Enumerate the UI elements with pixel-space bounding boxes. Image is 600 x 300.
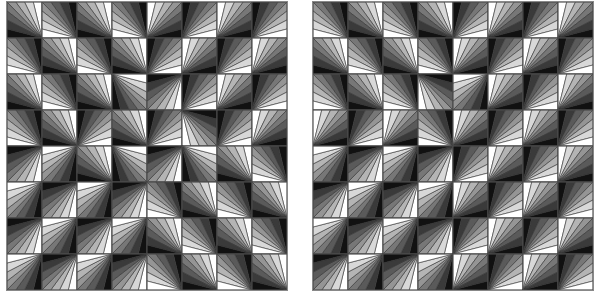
fan-tile (383, 2, 418, 38)
fan-tile (523, 218, 558, 254)
fan-tile (42, 110, 77, 146)
fan-tile (488, 110, 523, 146)
fan-tile (147, 146, 182, 182)
fan-tile (112, 38, 147, 74)
fan-tile (182, 110, 217, 146)
fan-tile (147, 2, 182, 38)
fan-tile (453, 2, 488, 38)
fan-tile (77, 38, 112, 74)
fan-tile (453, 38, 488, 74)
fan-tile (453, 254, 488, 290)
fan-tile (217, 74, 252, 110)
fan-tile (453, 74, 488, 110)
fan-tile (418, 146, 453, 182)
fan-tile (112, 146, 147, 182)
fan-tile (453, 146, 488, 182)
fan-tile (42, 146, 77, 182)
pattern-panel-right (312, 1, 594, 291)
fan-tile (182, 38, 217, 74)
pattern-panel-left (6, 1, 288, 291)
fan-tile (488, 38, 523, 74)
fan-tile (383, 74, 418, 110)
fan-tile (42, 38, 77, 74)
fan-tile (112, 218, 147, 254)
fan-tile (217, 110, 252, 146)
fan-tile (558, 38, 593, 74)
fan-tile (558, 74, 593, 110)
fan-tile (313, 218, 348, 254)
fan-tile (313, 38, 348, 74)
fan-tile (488, 218, 523, 254)
fan-tile (418, 218, 453, 254)
fan-tile (453, 182, 488, 218)
fan-tile (112, 254, 147, 290)
fan-tile (383, 110, 418, 146)
fan-tile (217, 254, 252, 290)
fan-tile (147, 218, 182, 254)
fan-tile (313, 110, 348, 146)
fan-tile (7, 218, 42, 254)
fan-tile (217, 146, 252, 182)
fan-tile (252, 2, 287, 38)
fan-tile (558, 2, 593, 38)
fan-tile (7, 182, 42, 218)
fan-tile (217, 38, 252, 74)
fan-tile (252, 182, 287, 218)
fan-tile (488, 254, 523, 290)
fan-tile (217, 182, 252, 218)
fan-tile (42, 182, 77, 218)
fan-tile (348, 110, 383, 146)
fan-tile (313, 2, 348, 38)
fan-tile (42, 74, 77, 110)
fan-tile (558, 254, 593, 290)
fan-tile (348, 74, 383, 110)
fan-tile (523, 2, 558, 38)
fan-tile (112, 2, 147, 38)
fan-tile (418, 74, 453, 110)
fan-tile (7, 110, 42, 146)
fan-tile (252, 254, 287, 290)
fan-tile (182, 218, 217, 254)
fan-tile (383, 38, 418, 74)
fan-tile (42, 218, 77, 254)
fan-tile (558, 146, 593, 182)
fan-tile (313, 146, 348, 182)
fan-tile (77, 74, 112, 110)
fan-tile (523, 38, 558, 74)
fan-tile (348, 2, 383, 38)
fan-tile (7, 74, 42, 110)
fan-tile (7, 38, 42, 74)
tile-grid-right (313, 2, 593, 290)
fan-tile (383, 146, 418, 182)
fan-tile (252, 146, 287, 182)
fan-tile (77, 2, 112, 38)
fan-tile (147, 74, 182, 110)
fan-tile (42, 254, 77, 290)
fan-tile (112, 110, 147, 146)
fan-tile (558, 182, 593, 218)
fan-tile (77, 146, 112, 182)
fan-tile (348, 182, 383, 218)
fan-tile (488, 2, 523, 38)
fan-tile (252, 110, 287, 146)
fan-tile (418, 38, 453, 74)
fan-tile (182, 146, 217, 182)
fan-tile (453, 110, 488, 146)
fan-tile (383, 254, 418, 290)
fan-tile (147, 110, 182, 146)
fan-tile (313, 182, 348, 218)
fan-tile (42, 2, 77, 38)
fan-tile (77, 110, 112, 146)
fan-tile (523, 110, 558, 146)
fan-tile (313, 74, 348, 110)
fan-tile (147, 254, 182, 290)
fan-tile (348, 254, 383, 290)
fan-tile (252, 218, 287, 254)
fan-tile (147, 38, 182, 74)
fan-tile (7, 2, 42, 38)
fan-tile (558, 110, 593, 146)
fan-tile (217, 218, 252, 254)
fan-tile (418, 110, 453, 146)
fan-tile (217, 2, 252, 38)
fan-tile (523, 254, 558, 290)
